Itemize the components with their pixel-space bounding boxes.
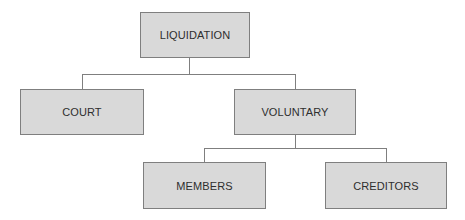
connector-to-voluntary [295, 74, 296, 89]
node-court: COURT [20, 89, 144, 135]
connector-to-court [82, 74, 83, 89]
node-label: VOLUNTARY [261, 106, 328, 118]
node-label: LIQUIDATION [160, 29, 231, 41]
node-creditors: CREDITORS [325, 162, 447, 209]
node-label: COURT [62, 106, 101, 118]
connector-voluntary-stem [295, 134, 296, 148]
node-label: CREDITORS [353, 180, 418, 192]
connector-voluntary-bar [204, 148, 387, 149]
connector-root-bar [82, 74, 296, 75]
node-liquidation: LIQUIDATION [140, 12, 250, 58]
node-voluntary: VOLUNTARY [234, 89, 356, 135]
node-label: MEMBERS [176, 180, 232, 192]
connector-root-stem [189, 57, 190, 74]
connector-to-members [204, 148, 205, 162]
node-members: MEMBERS [143, 162, 266, 209]
connector-to-creditors [386, 148, 387, 162]
